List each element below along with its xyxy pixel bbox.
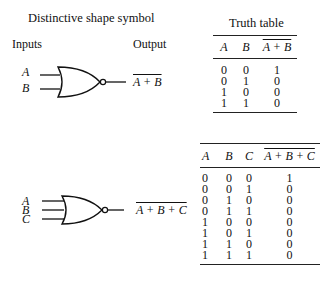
inputs-label: Inputs	[12, 37, 42, 52]
cell: 0	[257, 98, 297, 113]
truth-table-2-input: A B A + B 001 010 100 110	[213, 35, 297, 113]
cell: 1	[213, 98, 235, 113]
header-a: A	[213, 36, 235, 59]
output-expression: A + B	[133, 75, 162, 90]
cell: 1	[200, 250, 219, 265]
truth-table-3-input: A B C A + B + C 0001 0010 0100 0110 1000…	[200, 143, 320, 265]
cell: 1	[239, 250, 259, 265]
truth-table-title: Truth table	[229, 16, 284, 31]
header-b: B	[235, 36, 257, 59]
header-c: C	[239, 144, 259, 168]
input-c-label: C	[22, 215, 30, 224]
header-output: A + B	[257, 36, 297, 59]
header-output: A + B + C	[259, 144, 320, 168]
output-label: Output	[133, 37, 166, 52]
header-a: A	[200, 144, 219, 168]
cell: 1	[235, 98, 257, 113]
output-expression: A + B + C	[136, 203, 187, 218]
input-a-label: A	[22, 65, 29, 80]
header-b: B	[219, 144, 239, 168]
input-b-label: B	[22, 81, 29, 96]
cell: 0	[259, 250, 320, 265]
section-title: Distinctive shape symbol	[28, 11, 154, 26]
cell: 1	[219, 250, 239, 265]
